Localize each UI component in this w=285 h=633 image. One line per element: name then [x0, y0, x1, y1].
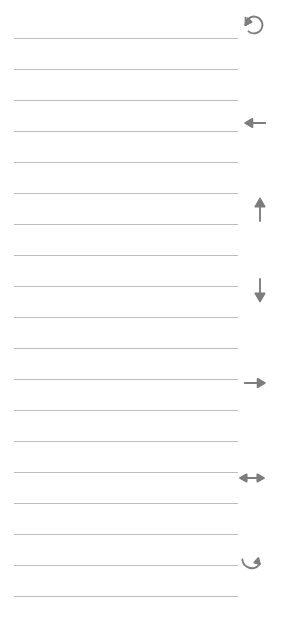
ruled-line — [14, 286, 238, 287]
ruled-line — [14, 565, 238, 566]
ruled-line — [14, 193, 238, 194]
ruled-line — [14, 162, 238, 163]
rotate-counterclockwise-icon — [238, 9, 270, 41]
ruled-line — [14, 596, 238, 597]
ruled-paper-canvas — [0, 0, 285, 633]
arrow-up-icon — [244, 193, 276, 225]
ruled-line — [14, 472, 238, 473]
ruled-line — [14, 100, 238, 101]
ruled-line — [14, 348, 238, 349]
ruled-line — [14, 441, 238, 442]
ruled-line — [14, 224, 238, 225]
ruled-line — [14, 38, 238, 39]
ruled-line — [14, 534, 238, 535]
ruled-line — [14, 255, 238, 256]
ruled-line — [14, 410, 238, 411]
ruled-line — [14, 503, 238, 504]
arrow-left-right-icon — [236, 462, 268, 494]
arrow-right-icon — [240, 368, 270, 398]
ruled-line — [14, 379, 238, 380]
arrow-left-icon — [240, 108, 270, 138]
ruled-line — [14, 317, 238, 318]
ruled-line — [14, 131, 238, 132]
ruled-line — [14, 69, 238, 70]
arrow-down-icon — [244, 275, 276, 307]
rotate-clockwise-icon — [236, 547, 268, 579]
